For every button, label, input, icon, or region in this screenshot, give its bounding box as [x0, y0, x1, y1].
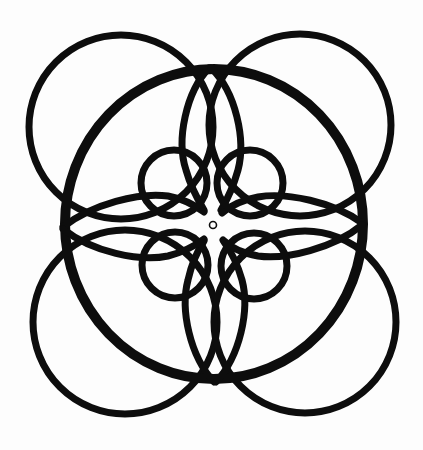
center-dot: [210, 222, 217, 229]
petal-arc-left-top: [63, 195, 204, 227]
diagram-canvas: Concentric interlocking circles rosette: [0, 0, 423, 450]
rosette-diagram: [0, 0, 423, 450]
